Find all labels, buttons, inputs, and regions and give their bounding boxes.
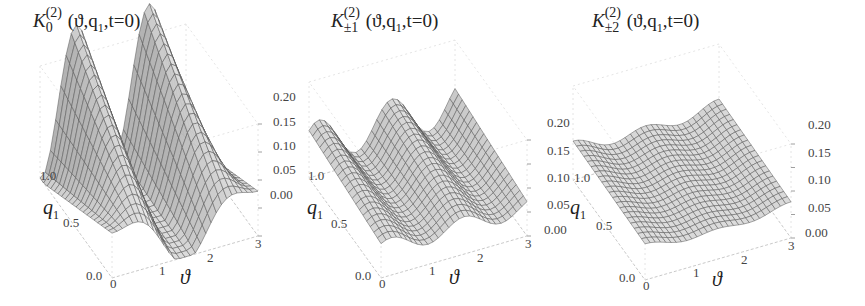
z-tick: 0.05 [808, 200, 831, 216]
y-axis-label: q1 [307, 196, 323, 223]
x-axis-label: ϑ [449, 266, 459, 289]
q-tick: 0.0 [355, 268, 371, 284]
z-tick: 0.00 [805, 225, 828, 241]
title-superscript: (2) [344, 5, 360, 21]
title-symbol: K [331, 10, 344, 31]
q-tick: 0.0 [619, 270, 635, 286]
plot-panel-k-pm1: K(2)±1(ϑ,q1,t=0) 0.20 0.15 0.10 0.05 0.0… [283, 0, 573, 306]
plot-title: K(2)0(ϑ,q1,t=0) [33, 10, 140, 36]
title-subscript: ±2 [605, 20, 620, 36]
title-args: (ϑ,q [627, 10, 657, 31]
plot-title: K(2)±2(ϑ,q1,t=0) [592, 10, 699, 36]
q-tick: 1.0 [308, 168, 324, 184]
q-tick: 0.5 [63, 215, 79, 231]
title-superscript: (2) [605, 5, 621, 21]
title-symbol: K [33, 10, 46, 31]
title-superscript: (2) [46, 5, 62, 21]
theta-tick: 3 [255, 236, 262, 252]
q-tick: 0.5 [596, 218, 612, 234]
z-tick: 0.20 [808, 117, 831, 133]
title-subscript: ±1 [344, 20, 359, 36]
title-args-tail: ,t=0) [402, 10, 439, 31]
q-tick: 1.0 [574, 170, 590, 186]
theta-tick: 1 [159, 263, 166, 279]
theta-tick: 2 [741, 252, 748, 268]
theta-tick: 1 [429, 263, 436, 279]
z-tick: 0.00 [544, 222, 567, 238]
surface-plot-k-pm1 [283, 0, 573, 306]
z-tick: 0.10 [808, 172, 831, 188]
q-tick: 1.0 [40, 168, 56, 184]
theta-tick: 2 [477, 250, 484, 266]
title-args: (ϑ,q [68, 10, 98, 31]
plot-panel-k0: K(2)0(ϑ,q1,t=0) 0.20 0.15 0.10 0.05 0.00… [0, 0, 290, 306]
theta-tick: 3 [788, 238, 795, 254]
title-args: (ϑ,q [366, 10, 396, 31]
title-symbol: K [592, 10, 605, 31]
theta-tick: 0 [643, 278, 650, 294]
plot-panel-k-pm2: K(2)±2(ϑ,q1,t=0) 0.20 0.15 0.10 0.05 0.0… [565, 0, 855, 306]
theta-tick: 0 [110, 276, 117, 292]
q-tick: 0.0 [86, 268, 102, 284]
z-tick: 0.15 [808, 145, 831, 161]
q-tick: 0.5 [331, 216, 347, 232]
y-axis-label: q1 [570, 196, 586, 223]
x-axis-label: ϑ [180, 266, 190, 289]
theta-tick: 1 [693, 265, 700, 281]
plot-title: K(2)±1(ϑ,q1,t=0) [331, 10, 438, 36]
surface-plot-k0 [0, 0, 290, 306]
title-subscript: 0 [46, 20, 53, 36]
title-args-tail: ,t=0) [663, 10, 700, 31]
x-axis-label: ϑ [712, 268, 722, 291]
theta-tick: 2 [207, 250, 214, 266]
theta-tick: 3 [525, 236, 532, 252]
theta-tick: 0 [379, 276, 386, 292]
title-args-tail: ,t=0) [104, 10, 141, 31]
y-axis-label: q1 [43, 196, 59, 223]
